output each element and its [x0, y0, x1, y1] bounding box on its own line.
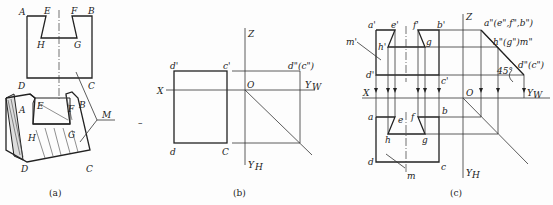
- caption-a: (a): [49, 188, 61, 198]
- figure-c: a' e' f' b' m' h' g d' c' Z X O Y W Y H …: [346, 12, 550, 198]
- label-E: E: [43, 6, 51, 16]
- label-B: B: [87, 6, 95, 16]
- label-YH-sub: H: [471, 170, 480, 180]
- label-b-prime: b': [437, 20, 445, 30]
- label-C: C: [222, 147, 229, 157]
- caption-c: (c): [450, 188, 462, 198]
- label-c: c: [441, 162, 446, 172]
- label-G-iso: G: [68, 130, 75, 140]
- label-YW-sub: W: [533, 90, 543, 100]
- caption-b: (b): [233, 188, 246, 198]
- label-a-dprime: a"(e",f",b"): [484, 18, 534, 28]
- label-f-prime: f': [412, 20, 419, 30]
- figure-b: – Z X O Y W Y H d' c' d"(c") d C (b): [138, 28, 322, 198]
- label-angle: 45°: [496, 66, 513, 76]
- label-d: d: [170, 147, 176, 157]
- label-F-iso: F: [67, 104, 75, 114]
- label-O: O: [247, 80, 255, 90]
- drawing-canvas: A E F B H G D C M A E F B H G D C (a) – …: [0, 0, 553, 205]
- label-A: A: [18, 7, 26, 17]
- label-C: C: [88, 81, 95, 91]
- label-C-iso: C: [86, 164, 93, 174]
- label-O: O: [466, 88, 474, 98]
- label-Z: Z: [247, 29, 255, 39]
- label-F: F: [70, 6, 78, 16]
- label-G: G: [74, 40, 81, 50]
- label-D: D: [17, 81, 25, 91]
- label-d-prime: d': [366, 70, 374, 80]
- label-H: H: [36, 40, 45, 50]
- label-c-prime: c': [441, 76, 449, 86]
- label-h-dprime: h"(g")m": [493, 37, 533, 47]
- label-b: b: [442, 106, 448, 116]
- label-X: X: [362, 88, 370, 98]
- label-H-iso: H: [27, 133, 36, 143]
- label-Z: Z: [465, 12, 473, 22]
- label-c-prime: c': [223, 61, 231, 71]
- label-d: d: [368, 157, 374, 167]
- label-d-dprime: d"(c"): [518, 60, 545, 70]
- dash-mark: –: [138, 118, 143, 128]
- label-D-iso: D: [20, 164, 28, 174]
- label-m: m: [407, 171, 416, 181]
- label-d-prime: d': [170, 61, 178, 71]
- label-d-dprime: d"(c"): [288, 61, 315, 71]
- projection-figure: A E F B H G D C M A E F B H G D C (a) – …: [0, 0, 553, 205]
- label-h-prime: h': [378, 42, 386, 52]
- label-B-iso: B: [78, 100, 86, 110]
- label-g-prime: g: [426, 37, 432, 47]
- label-YH-sub: H: [254, 162, 263, 172]
- label-A-iso: A: [18, 105, 26, 115]
- label-YH: Y: [248, 160, 255, 170]
- label-m-prime: m': [346, 37, 357, 47]
- label-E-iso: E: [36, 101, 44, 111]
- figure-a: A E F B H G D C M A E F B H G D C (a): [6, 6, 115, 198]
- label-e-prime: e': [391, 20, 399, 30]
- label-a-prime: a': [368, 20, 376, 30]
- label-f: f: [410, 112, 416, 122]
- label-YW-sub: W: [312, 82, 322, 92]
- label-X: X: [156, 86, 164, 96]
- label-e: e: [398, 115, 403, 125]
- label-a: a: [368, 112, 373, 122]
- label-M: M: [101, 110, 112, 120]
- label-YW: Y: [305, 80, 312, 90]
- label-g: g: [422, 135, 428, 145]
- label-h: h: [385, 135, 391, 145]
